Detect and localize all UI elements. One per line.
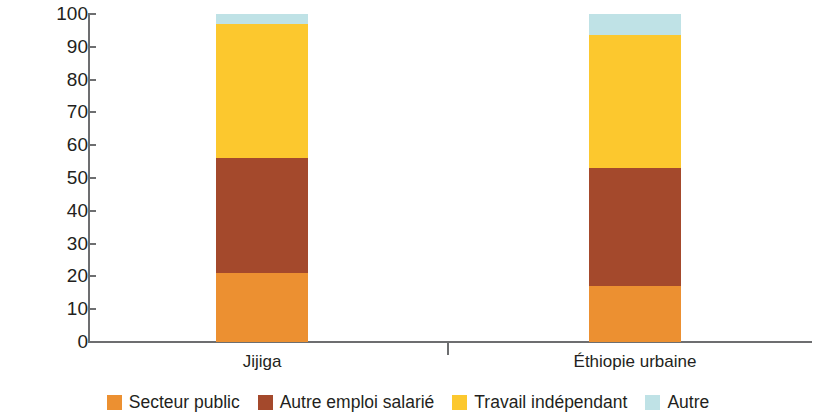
- bar-segment[interactable]: [589, 35, 681, 168]
- legend-item[interactable]: Travail indépendant: [452, 392, 627, 413]
- legend-swatch-icon: [258, 395, 273, 410]
- legend-label: Autre: [667, 392, 709, 413]
- y-tick-label: 90: [44, 37, 88, 56]
- legend-item[interactable]: Autre: [645, 392, 709, 413]
- chart-legend: Secteur publicAutre emploi salariéTravai…: [0, 392, 816, 413]
- plot-area: Pourcentage 1009080706050403020100 Jijig…: [0, 0, 816, 420]
- legend-item[interactable]: Autre emploi salarié: [258, 392, 435, 413]
- y-tick-label: 20: [44, 266, 88, 285]
- y-tick-label: 50: [44, 168, 88, 187]
- legend-label: Autre emploi salarié: [280, 392, 435, 413]
- y-axis-line: [88, 14, 90, 343]
- legend-swatch-icon: [452, 395, 467, 410]
- y-tick-label: 40: [44, 201, 88, 220]
- legend-swatch-icon: [107, 395, 122, 410]
- x-axis-line: [88, 341, 812, 343]
- x-axis-label: Jijiga: [142, 352, 382, 372]
- x-axis-label: Éthiopie urbaine: [515, 352, 755, 372]
- legend-swatch-icon: [645, 395, 660, 410]
- y-tick-label: 80: [44, 70, 88, 89]
- y-tick-label: 60: [44, 135, 88, 154]
- y-tick-label: 100: [44, 4, 88, 23]
- bar-segment[interactable]: [589, 168, 681, 286]
- y-tick-label: 30: [44, 234, 88, 253]
- bar-segment[interactable]: [589, 14, 681, 35]
- y-tick-label: 10: [44, 299, 88, 318]
- legend-label: Travail indépendant: [474, 392, 627, 413]
- bar-stack[interactable]: [589, 14, 681, 342]
- legend-label: Secteur public: [129, 392, 240, 413]
- y-axis-ticks: 1009080706050403020100: [36, 0, 88, 420]
- stacked-bar-chart: Pourcentage 1009080706050403020100 Jijig…: [0, 0, 816, 420]
- bar-segment[interactable]: [216, 158, 308, 273]
- y-tick-label: 70: [44, 102, 88, 121]
- bar-segment[interactable]: [216, 14, 308, 24]
- x-axis-category-divider: [447, 343, 449, 355]
- bar-stack[interactable]: [216, 14, 308, 342]
- bar-segment[interactable]: [216, 24, 308, 158]
- y-tick-label: 0: [44, 332, 88, 351]
- bar-segment[interactable]: [589, 286, 681, 342]
- legend-item[interactable]: Secteur public: [107, 392, 240, 413]
- bar-segment[interactable]: [216, 273, 308, 342]
